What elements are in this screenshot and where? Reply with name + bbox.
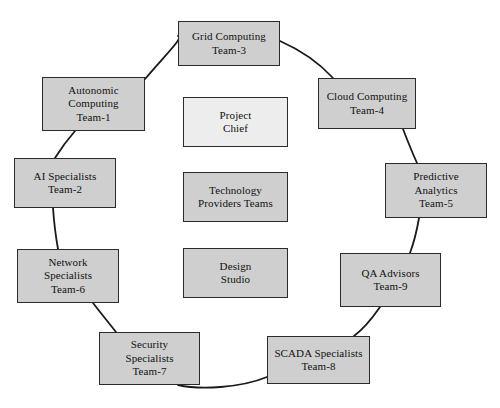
node-security-specialists[interactable]: Security Specialists Team-7	[99, 332, 200, 385]
node-label-ai-specialists: AI Specialists Team-2	[31, 170, 100, 197]
node-grid-computing[interactable]: Grid Computing Team-3	[178, 21, 280, 66]
node-scada-specialists[interactable]: SCADA Specialists Team-8	[267, 336, 370, 384]
link-qa-advisors-to-scada-specialists	[354, 307, 380, 336]
node-label-qa-advisors: QA Advisors Team-9	[358, 267, 422, 294]
node-label-cloud-computing: Cloud Computing Team-4	[324, 90, 411, 117]
node-label-predictive-analytics: Predictive Analytics Team-5	[410, 170, 462, 210]
link-ai-specialists-to-autonomic-computing	[55, 131, 75, 158]
node-label-network-specialists: Network Specialists Team-6	[41, 256, 95, 296]
node-predictive-analytics[interactable]: Predictive Analytics Team-5	[385, 163, 487, 218]
node-autonomic-computing[interactable]: Autonomic Computing Team-1	[42, 77, 145, 131]
node-network-specialists[interactable]: Network Specialists Team-6	[17, 249, 119, 303]
link-grid-computing-to-cloud-computing	[280, 41, 333, 78]
node-qa-advisors[interactable]: QA Advisors Team-9	[340, 253, 441, 307]
link-security-specialists-to-network-specialists	[93, 303, 116, 332]
node-label-design-studio: Design Studio	[217, 260, 255, 287]
node-label-security-specialists: Security Specialists Team-7	[122, 338, 176, 378]
node-label-project-chief: Project Chief	[217, 109, 255, 136]
link-predictive-analytics-to-qa-advisors	[410, 218, 419, 253]
node-cloud-computing[interactable]: Cloud Computing Team-4	[318, 78, 416, 129]
diagram-canvas: Grid Computing Team-3Cloud Computing Tea…	[0, 0, 500, 408]
link-autonomic-computing-to-grid-computing	[145, 36, 179, 79]
node-label-technology-providers-teams: Technology Providers Teams	[195, 184, 276, 211]
node-project-chief[interactable]: Project Chief	[183, 97, 288, 147]
node-technology-providers-teams[interactable]: Technology Providers Teams	[183, 172, 288, 222]
link-cloud-computing-to-predictive-analytics	[403, 129, 417, 163]
node-ai-specialists[interactable]: AI Specialists Team-2	[14, 158, 116, 208]
link-network-specialists-to-ai-specialists	[53, 208, 58, 249]
node-label-scada-specialists: SCADA Specialists Team-8	[271, 347, 365, 374]
node-design-studio[interactable]: Design Studio	[183, 248, 288, 298]
node-label-autonomic-computing: Autonomic Computing Team-1	[65, 84, 121, 124]
node-label-grid-computing: Grid Computing Team-3	[189, 30, 269, 57]
